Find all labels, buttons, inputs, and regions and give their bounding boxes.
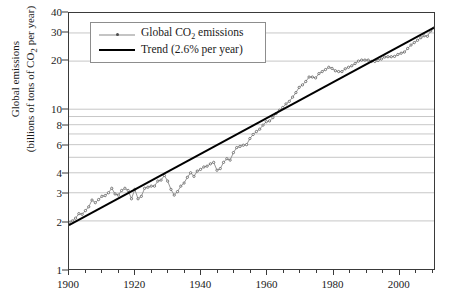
data-point bbox=[245, 144, 247, 146]
y-axis-title-line2-sub: 2 bbox=[29, 48, 39, 53]
x-axis-tick-mark-minor bbox=[415, 270, 416, 273]
data-point bbox=[324, 68, 326, 70]
data-point bbox=[143, 187, 145, 189]
data-point bbox=[265, 121, 267, 123]
y-axis-title-line2-prefix: (billions of tons of CO bbox=[24, 53, 36, 153]
x-axis-tick-label: 1900 bbox=[57, 278, 79, 290]
data-point bbox=[239, 145, 241, 147]
data-point bbox=[107, 192, 109, 194]
data-point bbox=[101, 195, 103, 197]
data-point bbox=[403, 51, 405, 53]
legend-label-emissions: Global CO2 emissions bbox=[137, 26, 243, 43]
data-point bbox=[222, 161, 224, 163]
y-axis-title: Global emissions (billions of tons of CO… bbox=[8, 0, 42, 199]
y-axis-tick-label: 10 bbox=[51, 103, 62, 114]
x-axis-tick-mark-minor bbox=[366, 270, 367, 273]
data-point bbox=[97, 198, 99, 200]
data-point bbox=[216, 169, 218, 171]
data-point bbox=[104, 194, 106, 196]
data-point bbox=[114, 193, 116, 195]
data-point bbox=[410, 44, 412, 46]
data-point bbox=[74, 217, 76, 219]
data-point bbox=[301, 84, 303, 86]
data-point bbox=[71, 220, 73, 222]
data-point bbox=[311, 76, 313, 78]
data-point bbox=[213, 161, 215, 163]
data-point bbox=[285, 103, 287, 105]
data-point bbox=[298, 86, 300, 88]
data-point bbox=[255, 130, 257, 132]
data-point bbox=[423, 35, 425, 37]
data-point bbox=[331, 67, 333, 69]
x-axis-tick-mark-minor bbox=[432, 270, 433, 273]
x-axis-tick-mark-minor bbox=[382, 270, 383, 273]
data-point bbox=[249, 137, 251, 139]
data-point bbox=[305, 80, 307, 82]
data-point bbox=[252, 133, 254, 135]
data-point bbox=[268, 120, 270, 122]
data-point bbox=[380, 58, 382, 60]
data-point bbox=[295, 91, 297, 93]
data-point bbox=[361, 59, 363, 61]
legend-label-trend: Trend (2.6% per year) bbox=[137, 43, 243, 56]
data-point bbox=[209, 163, 211, 165]
co2-emissions-chart: Global emissions (billions of tons of CO… bbox=[0, 0, 449, 304]
x-axis-tick-mark-minor bbox=[316, 270, 317, 273]
x-axis-tick-mark-major bbox=[68, 270, 69, 275]
data-point bbox=[81, 213, 83, 215]
x-axis-tick-mark-minor bbox=[101, 270, 102, 273]
data-point bbox=[334, 70, 336, 72]
data-point bbox=[344, 68, 346, 70]
x-axis-tick-mark-minor bbox=[85, 270, 86, 273]
data-point bbox=[288, 100, 290, 102]
data-point bbox=[347, 66, 349, 68]
y-axis-tick-label: 20 bbox=[51, 55, 62, 66]
x-axis-tick-mark-minor bbox=[233, 270, 234, 273]
data-point bbox=[420, 37, 422, 39]
x-axis-tick-mark-minor bbox=[217, 270, 218, 273]
x-axis-tick-label: 1960 bbox=[255, 278, 277, 290]
data-point bbox=[203, 166, 205, 168]
legend-item-trend: Trend (2.6% per year) bbox=[97, 42, 259, 57]
data-point bbox=[341, 70, 343, 72]
data-point bbox=[384, 56, 386, 58]
data-point bbox=[183, 182, 185, 184]
data-point bbox=[318, 72, 320, 74]
x-axis-tick-mark-minor bbox=[283, 270, 284, 273]
x-axis-tick-mark-minor bbox=[349, 270, 350, 273]
data-point bbox=[137, 198, 139, 200]
data-point bbox=[69, 222, 70, 224]
x-axis-tick-mark-minor bbox=[118, 270, 119, 273]
y-axis-tick-label: 30 bbox=[51, 27, 62, 38]
x-axis-tick-label: 1920 bbox=[123, 278, 145, 290]
data-point bbox=[84, 209, 86, 211]
x-axis-tick-label: 1940 bbox=[189, 278, 211, 290]
data-point bbox=[364, 59, 366, 61]
data-point bbox=[377, 59, 379, 61]
data-point bbox=[153, 185, 155, 187]
data-point bbox=[291, 96, 293, 98]
data-point bbox=[357, 60, 359, 62]
data-point bbox=[367, 59, 369, 61]
data-point bbox=[78, 213, 80, 215]
data-point bbox=[387, 56, 389, 58]
data-point bbox=[91, 199, 93, 201]
y-axis-title-line2-suffix: per year) bbox=[24, 6, 36, 48]
x-axis-tick-mark-major bbox=[134, 270, 135, 275]
legend-key-line-marker-icon bbox=[97, 29, 137, 41]
data-point bbox=[259, 128, 261, 130]
data-point bbox=[160, 179, 162, 181]
data-point bbox=[321, 70, 323, 72]
data-point bbox=[170, 188, 172, 190]
legend-item-emissions: Global CO2 emissions bbox=[97, 27, 259, 42]
legend-label-emissions-prefix: Global CO bbox=[141, 26, 191, 38]
x-axis-tick-mark-major bbox=[333, 270, 334, 275]
data-point bbox=[88, 206, 90, 208]
x-axis-tick-mark-major bbox=[266, 270, 267, 275]
data-point bbox=[232, 151, 234, 153]
data-point bbox=[229, 159, 231, 161]
data-point bbox=[407, 47, 409, 49]
x-axis-tick-mark-minor bbox=[250, 270, 251, 273]
x-axis-tick-mark-minor bbox=[184, 270, 185, 273]
data-point bbox=[180, 185, 182, 187]
